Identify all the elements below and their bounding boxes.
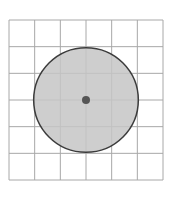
circle-grid-diagram: [0, 0, 173, 199]
center-point: [82, 96, 90, 104]
